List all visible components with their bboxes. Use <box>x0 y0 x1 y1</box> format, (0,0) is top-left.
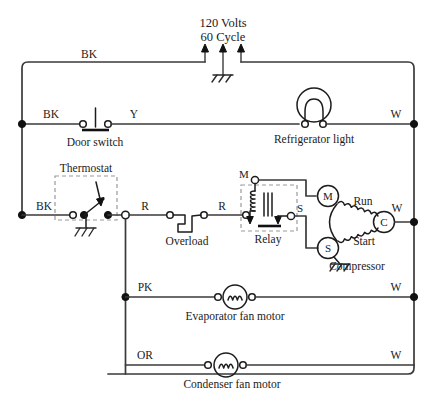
compressor-run-label: Run <box>353 195 372 207</box>
label-w-light: W <box>391 108 402 120</box>
door-switch-branch: BK Door switch Y <box>18 108 299 148</box>
supply-arrow-middle <box>220 44 227 75</box>
compressor-shell-arc <box>330 204 338 241</box>
relay-terminal-m[interactable] <box>251 176 258 183</box>
compressor-start-label: Start <box>353 235 376 247</box>
supply-arrow-left <box>202 44 209 62</box>
door-switch[interactable]: Door switch <box>67 108 124 148</box>
compressor-terminal-s-label: S <box>325 242 331 254</box>
label-w-compressor: W <box>392 202 403 214</box>
condenser-fan-motor[interactable]: Condenser fan motor <box>183 353 280 390</box>
supply-frequency-label: 60 Cycle <box>201 30 246 44</box>
overload-label: Overload <box>166 235 209 247</box>
overload[interactable]: Overload <box>166 212 209 247</box>
label-bk-thermostat: BK <box>36 200 53 212</box>
relay-terminal-s-label: S <box>297 202 303 214</box>
light-bulb-outline <box>297 88 331 122</box>
supply-voltage-label: 120 Volts <box>199 16 246 30</box>
right-bus-line <box>108 62 414 374</box>
label-bk-top: BK <box>81 48 98 60</box>
relay-coil-arrow <box>247 217 254 225</box>
label-w-cond: W <box>391 349 402 361</box>
relay-plunger-arrow <box>275 217 282 225</box>
relay-terminal-m-label: M <box>239 168 249 180</box>
label-r-right: R <box>218 200 226 212</box>
relay-enclosure <box>241 185 297 231</box>
light-terminal-left[interactable] <box>302 121 309 128</box>
junction-right-bus-row2 <box>410 218 417 225</box>
ground-icon <box>212 75 233 82</box>
evap-motor-winding <box>228 296 242 300</box>
label-y-door: Y <box>130 108 139 120</box>
label-w-evap: W <box>391 281 402 293</box>
cond-terminal-left[interactable] <box>205 362 212 369</box>
wiring-diagram: 120 Volts 60 Cycle <box>0 0 430 409</box>
wire-relay-s-to-compressor-s <box>295 216 318 248</box>
label-pk-evap: PK <box>138 281 153 293</box>
relay-terminal-s[interactable] <box>287 212 294 219</box>
cond-motor-winding <box>219 364 233 368</box>
thermostat[interactable]: Thermostat <box>55 162 117 236</box>
thermostat-branch: BK Thermostat <box>18 162 167 236</box>
evaporator-fan-branch: PK Evaporator fan motor W <box>122 281 418 323</box>
compressor-label: Compressor <box>329 260 385 273</box>
evaporator-fan-motor-label: Evaporator fan motor <box>186 310 285 323</box>
compressor-terminal-m-label: M <box>323 190 333 202</box>
compressor-terminal-c-label: C <box>380 216 387 228</box>
relay-coil <box>247 191 255 224</box>
evap-terminal-left[interactable] <box>215 294 222 301</box>
door-switch-terminal-left[interactable] <box>80 121 87 128</box>
condenser-fan-motor-label: Condenser fan motor <box>183 378 280 390</box>
refrigerator-light-label: Refrigerator light <box>274 133 355 146</box>
door-switch-label: Door switch <box>67 136 124 148</box>
label-bk-door: BK <box>43 108 60 120</box>
compressor[interactable]: M S C Run Start <box>318 186 418 274</box>
junction-right-bus-row1 <box>410 120 417 127</box>
relay-label: Relay <box>255 233 282 246</box>
junction-left-bus-row1 <box>18 120 25 127</box>
label-or-cond: OR <box>137 349 153 361</box>
thermostat-label: Thermostat <box>60 162 113 174</box>
condenser-fan-branch: OR Condenser fan motor W <box>126 349 415 390</box>
overload-bimetal-element <box>173 215 201 232</box>
power-supply: 120 Volts 60 Cycle <box>199 16 246 82</box>
supply-arrow-right <box>238 44 245 62</box>
right-bus <box>108 62 414 374</box>
thermostat-ground-icon <box>75 215 96 236</box>
label-r-left: R <box>141 200 149 212</box>
evaporator-fan-motor[interactable]: Evaporator fan motor <box>186 285 285 323</box>
wiring-diagram-canvas: 120 Volts 60 Cycle <box>0 0 430 409</box>
thermostat-terminal-in[interactable] <box>70 212 77 219</box>
refrigerator-light[interactable]: Refrigerator light W <box>274 88 418 146</box>
junction-right-bus-row3 <box>410 293 417 300</box>
